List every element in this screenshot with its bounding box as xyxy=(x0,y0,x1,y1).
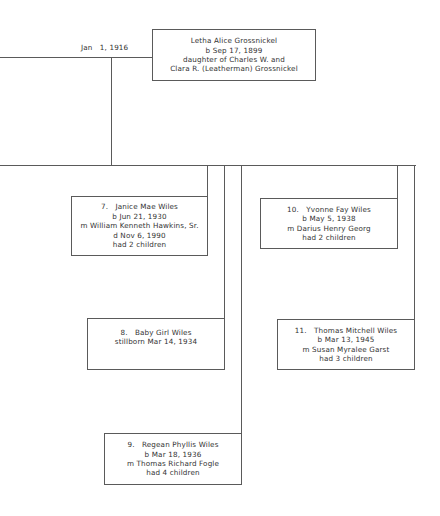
child-marriage: m William Kenneth Hawkins, Sr. xyxy=(80,221,198,230)
spouse-parents-line-2: Clara R. (Leatherman) Grossnickel xyxy=(170,64,298,73)
spouse-parents-line-1: daughter of Charles W. and xyxy=(183,55,285,64)
child-name: 10. Yvonne Fay Wiles xyxy=(287,205,371,214)
child-birth: b Jun 21, 1930 xyxy=(112,212,166,221)
child-birth: b Mar 18, 1936 xyxy=(145,450,202,459)
spouse-birth: b Sep 17, 1899 xyxy=(206,46,263,55)
child-box-7[interactable]: 7. Janice Mae Wiles b Jun 21, 1930 m Wil… xyxy=(71,196,208,256)
child-children-count: had 2 children xyxy=(113,240,167,249)
child-box-10[interactable]: 10. Yvonne Fay Wiles b May 5, 1938 m Dar… xyxy=(260,198,398,249)
child-box-11[interactable]: 11. Thomas Mitchell Wiles b Mar 13, 1945… xyxy=(277,319,415,370)
child-box-9[interactable]: 9. Regean Phyllis Wiles b Mar 18, 1936 m… xyxy=(104,433,242,485)
marriage-line xyxy=(0,57,152,58)
child-9-connector xyxy=(241,165,242,434)
spouse-name: Letha Alice Grossnickel xyxy=(191,36,277,45)
child-children-count: had 3 children xyxy=(319,354,373,363)
child-10-connector xyxy=(397,165,398,199)
sibling-bar xyxy=(0,165,416,166)
child-box-8[interactable]: 8. Baby Girl Wiles stillborn Mar 14, 193… xyxy=(87,318,225,370)
descent-line xyxy=(111,57,112,165)
child-7-connector xyxy=(207,165,208,197)
child-marriage: m Darius Henry Georg xyxy=(287,224,370,233)
child-children-count: had 2 children xyxy=(302,233,356,242)
child-birth: b Mar 13, 1945 xyxy=(318,335,375,344)
child-name: 11. Thomas Mitchell Wiles xyxy=(295,326,397,335)
spouse-box[interactable]: Letha Alice Grossnickel b Sep 17, 1899 d… xyxy=(152,29,316,81)
child-children-count: had 4 children xyxy=(146,468,200,477)
child-name: 7. Janice Mae Wiles xyxy=(101,202,178,211)
child-birth: b May 5, 1938 xyxy=(302,214,355,223)
marriage-date: Jan 1, 1916 xyxy=(81,43,128,52)
child-11-connector xyxy=(414,165,415,320)
child-stillborn: stillborn Mar 14, 1934 xyxy=(115,337,197,346)
child-name: 9. Regean Phyllis Wiles xyxy=(127,440,218,449)
child-marriage: m Susan Myralee Garst xyxy=(303,345,390,354)
child-death: d Nov 6, 1990 xyxy=(113,231,166,240)
child-marriage: m Thomas Richard Fogle xyxy=(127,459,219,468)
child-8-connector xyxy=(224,165,225,319)
child-name: 8. Baby Girl Wiles xyxy=(120,328,191,337)
